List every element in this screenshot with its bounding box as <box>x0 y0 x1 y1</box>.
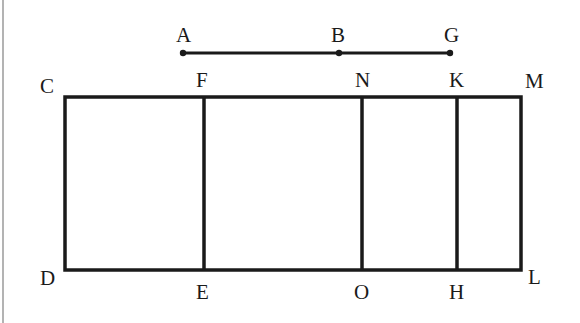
label-f: F <box>196 68 208 92</box>
rectangle-cmld <box>65 97 521 270</box>
label-h: H <box>449 280 464 304</box>
label-l: L <box>528 265 541 289</box>
label-e: E <box>196 280 209 304</box>
label-b: B <box>331 23 345 47</box>
label-k: K <box>449 68 464 92</box>
point-b <box>336 50 342 56</box>
point-g <box>447 50 453 56</box>
label-g: G <box>444 23 459 47</box>
label-n: N <box>355 68 370 92</box>
geometry-diagram: A B G C F N K M D E O H L <box>0 0 580 323</box>
label-c: C <box>40 74 54 98</box>
label-d: D <box>40 266 55 290</box>
label-a: A <box>176 23 192 47</box>
point-a <box>180 50 186 56</box>
segment-ag <box>180 50 453 56</box>
label-m: M <box>525 69 544 93</box>
label-o: O <box>354 280 369 304</box>
